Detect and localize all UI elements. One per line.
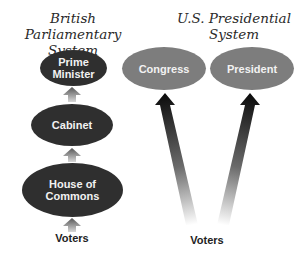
british-title-line1: British Parliamentary [0,10,146,42]
us-voters-label: Voters [177,234,237,246]
node-label: Minister [52,68,94,80]
node-label: Cabinet [52,119,92,131]
us-system-title: U.S. Presidential System [164,10,304,42]
node-label: Congress [139,63,190,75]
arrow-voters-to-president [217,93,260,225]
node-congress: Congress [122,47,206,90]
arrow-cabinet-to-pm [63,87,81,102]
node-label: Commons [46,190,100,202]
node-house-of-commons: House of Commons [22,163,123,217]
node-president: President [210,47,294,90]
node-prime-minister: Prime Minister [40,50,107,86]
us-title-line2: System [164,26,304,42]
arrow-voters-to-commons [63,218,81,232]
arrow-commons-to-cabinet [63,148,81,162]
node-label: House of [46,178,100,190]
node-cabinet: Cabinet [31,104,113,146]
node-label: Prime [52,56,94,68]
us-title-line1: U.S. Presidential [164,10,304,26]
node-label: President [227,63,277,75]
arrow-voters-to-congress [155,93,198,225]
british-voters-label: Voters [42,232,102,244]
